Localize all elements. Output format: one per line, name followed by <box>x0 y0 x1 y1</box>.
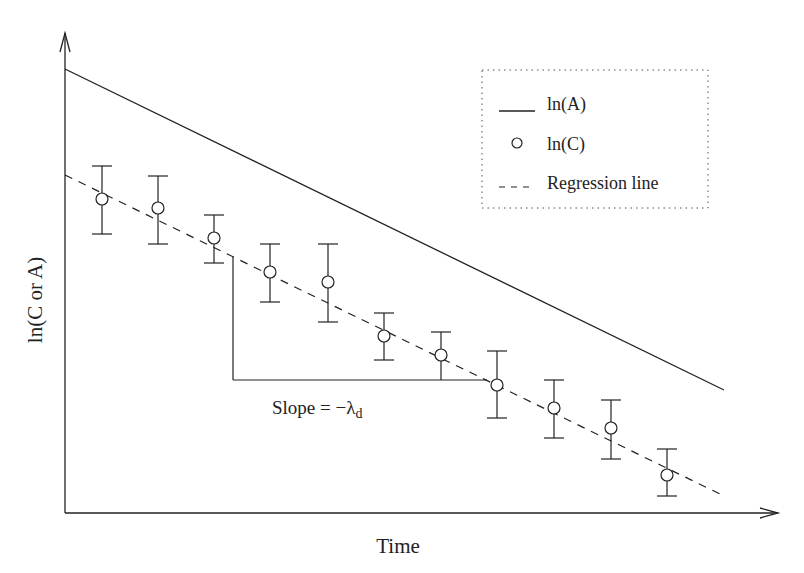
chart-canvas: Slope = −λd ln(A) ln(C) Regression line … <box>0 0 804 573</box>
legend-label-ln-a: ln(A) <box>547 94 586 115</box>
regression-line <box>65 175 724 496</box>
data-point <box>487 351 507 418</box>
legend: ln(A) ln(C) Regression line <box>482 70 708 208</box>
data-point <box>318 244 338 322</box>
legend-label-regression: Regression line <box>547 173 658 193</box>
data-point <box>657 449 677 496</box>
data-point <box>92 166 112 234</box>
data-point <box>544 380 564 438</box>
data-point <box>204 215 224 263</box>
data-point <box>148 176 168 244</box>
data-point <box>374 313 394 360</box>
data-point <box>260 244 280 302</box>
x-axis-label: Time <box>376 534 420 558</box>
y-axis-label: ln(C or A) <box>23 257 47 343</box>
legend-label-ln-c: ln(C) <box>547 134 585 155</box>
slope-label: Slope = −λd <box>272 397 362 421</box>
data-point <box>431 332 451 380</box>
data-point <box>601 400 621 459</box>
ln-c-points <box>92 166 677 496</box>
